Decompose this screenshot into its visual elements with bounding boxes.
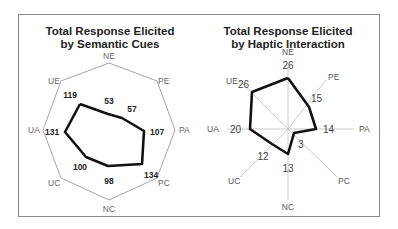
right-axis-ne: NE xyxy=(282,47,294,57)
left-value-nc: 98 xyxy=(104,176,114,186)
right-axis-nc: NC xyxy=(282,202,294,212)
right-value-nc: 13 xyxy=(282,163,294,174)
right-axis-uc: UC xyxy=(228,176,240,186)
left-axis-ne: NE xyxy=(103,51,115,61)
left-value-pc: 134 xyxy=(144,170,158,180)
left-value-ne: 53 xyxy=(104,96,114,106)
right-value-pe: 15 xyxy=(311,93,323,104)
left-value-labels: 53 57 107 134 98 100 131 119 xyxy=(45,90,164,186)
right-data-polygon xyxy=(250,78,316,154)
left-value-pe: 57 xyxy=(127,104,137,114)
right-axis-pa: PA xyxy=(359,124,370,134)
left-axis-ua: UA xyxy=(28,125,40,135)
right-radar-chart: NE PE PA PC NC UC UA UE 26 15 14 3 13 12… xyxy=(207,47,370,212)
charts-canvas: NE PE PA PC NC UC UA UE 53 57 107 134 98… xyxy=(0,0,398,229)
right-value-ue: 26 xyxy=(238,79,250,90)
left-axis-pc: PC xyxy=(158,178,170,188)
left-axis-nc: NC xyxy=(103,204,115,214)
right-value-uc: 12 xyxy=(257,151,269,162)
left-radar-chart: NE PE PA PC NC UC UA UE 53 57 107 134 98… xyxy=(28,51,190,214)
left-axis-ue: UE xyxy=(48,76,60,86)
right-axis-pc: PC xyxy=(338,176,350,186)
right-axis-pe: PE xyxy=(328,72,340,82)
left-value-ue: 119 xyxy=(63,90,77,100)
left-value-ua: 131 xyxy=(45,127,59,137)
right-axis-ue: UE xyxy=(226,76,238,86)
right-value-pc: 3 xyxy=(298,139,304,150)
right-axis-ua: UA xyxy=(207,124,219,134)
left-axis-uc: UC xyxy=(48,178,60,188)
left-axis-pa: PA xyxy=(179,125,190,135)
left-value-uc: 100 xyxy=(73,162,87,172)
right-value-pa: 14 xyxy=(323,124,335,135)
right-value-labels: 26 15 14 3 13 12 20 26 xyxy=(230,60,335,174)
right-value-ne: 26 xyxy=(282,60,294,71)
left-value-pa: 107 xyxy=(150,127,164,137)
left-axis-pe: PE xyxy=(158,76,170,86)
right-value-ua: 20 xyxy=(230,124,242,135)
